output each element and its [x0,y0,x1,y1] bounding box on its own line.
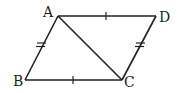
vertex-label-A: A [42,4,54,20]
vertex-label-B: B [13,73,23,89]
edge-DC [122,16,156,80]
vertex-label-D: D [159,9,170,25]
parallelogram-diagram: A D B C [0,0,179,93]
vertex-label-C: C [124,74,135,90]
edge-AB [25,16,58,80]
diagonal-AC [58,16,122,80]
